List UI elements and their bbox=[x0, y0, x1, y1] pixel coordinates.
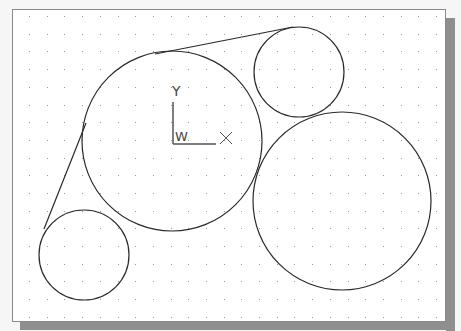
drawing-canvas[interactable] bbox=[0, 0, 461, 331]
tangent-line-top[interactable] bbox=[155, 27, 293, 54]
large-right-circle[interactable] bbox=[253, 112, 431, 290]
ucs-y-label: Y bbox=[172, 84, 181, 98]
ucs-w-label: W bbox=[175, 130, 188, 144]
drawing-geometry bbox=[39, 27, 431, 300]
small-bottom-left-circle[interactable] bbox=[39, 210, 129, 300]
grid-dots bbox=[29, 16, 437, 318]
small-top-right-circle[interactable] bbox=[254, 27, 344, 117]
tangent-line-left[interactable] bbox=[44, 123, 86, 229]
